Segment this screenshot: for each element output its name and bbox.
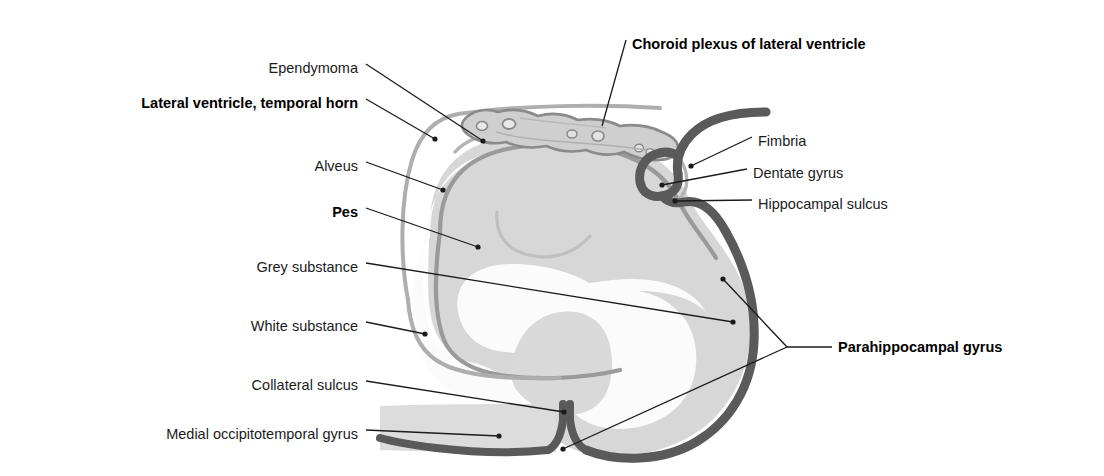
leader-choroid-plexus [602,40,626,126]
leader-dot-medial-occipitotemporal [496,433,501,438]
leader-dot-parahippocampal-lower [560,446,565,451]
leader-dot-fimbria [688,163,693,168]
leader-dot-hippocampal-sulcus [672,198,677,203]
label-ependymoma: Ependymoma [269,61,358,76]
label-choroid-plexus-of-lateral-ventricle: Choroid plexus of lateral ventricle [632,37,866,52]
leader-dot-pes [475,244,480,249]
plexus-vessel-2 [503,119,516,129]
leader-dot-parahippocampal-upper [720,276,725,281]
leader-dot-lateral-ventricle [432,136,437,141]
label-fimbria: Fimbria [758,134,806,149]
leader-ependymoma [366,64,483,141]
label-parahippocampal-gyrus: Parahippocampal gyrus [838,340,1002,355]
label-hippocampal-sulcus: Hippocampal sulcus [758,197,888,212]
plexus-vessel-4 [592,131,604,141]
plexus-vessel-1 [477,122,488,131]
leader-dot-collateral-sulcus [561,409,566,414]
plexus-vessel-3 [567,130,577,138]
label-pes: Pes [332,205,358,220]
label-alveus: Alveus [314,159,358,174]
label-collateral-sulcus: Collateral sulcus [252,378,358,393]
leader-dot-ependymoma [480,138,485,143]
leader-dot-alveus [440,187,445,192]
label-medial-occipitotemporal-gyrus: Medial occipitotemporal gyrus [166,427,358,442]
leader-dot-white-substance [422,331,427,336]
label-dentate-gyrus: Dentate gyrus [753,166,843,181]
leader-fimbria [691,137,752,166]
leader-dot-dentate-gyrus [659,182,664,187]
label-white-substance: White substance [251,319,358,334]
leader-dot-grey-substance [730,319,735,324]
anatomical-figure: Ependymoma Lateral ventricle, temporal h… [0,0,1104,476]
hippocampus-diagram-svg [0,0,1104,476]
leader-lateral-ventricle [366,99,435,139]
label-grey-substance: Grey substance [256,260,358,275]
label-lateral-ventricle-temporal-horn: Lateral ventricle, temporal horn [141,96,358,111]
